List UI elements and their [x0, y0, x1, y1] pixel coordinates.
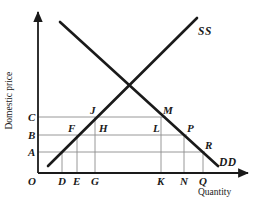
point-label-M: M — [163, 105, 173, 116]
point-label-J: J — [90, 105, 96, 116]
quantity-axis-label-G: G — [91, 176, 99, 187]
y-axis-title: Domestic price — [5, 72, 15, 130]
supply-demand-figure: Domestic price Quantity SSDDCBADEGKNQJMF… — [0, 0, 259, 219]
point-label-L: L — [153, 123, 160, 134]
quantity-gridlines — [62, 117, 203, 173]
curve-label-demand: DD — [219, 157, 237, 169]
curve-supply — [48, 18, 197, 166]
price-axis-label-A: A — [28, 147, 35, 158]
point-label-H: H — [99, 123, 108, 134]
price-axis-label-C: C — [28, 112, 35, 123]
price-gridlines — [38, 117, 205, 152]
axes — [38, 12, 248, 173]
origin-label: O — [28, 176, 36, 187]
point-label-F: F — [68, 123, 75, 134]
x-axis-title: Quantity — [198, 188, 231, 198]
curves — [48, 18, 218, 166]
quantity-axis-label-D: D — [58, 176, 66, 187]
quantity-axis-label-Q: Q — [199, 176, 207, 187]
curve-demand — [60, 22, 218, 166]
quantity-axis-label-N: N — [180, 176, 188, 187]
point-label-P: P — [187, 123, 194, 134]
price-axis-label-B: B — [28, 130, 35, 141]
quantity-axis-label-E: E — [73, 176, 80, 187]
point-label-R: R — [205, 140, 212, 151]
curve-label-supply: SS — [198, 26, 212, 38]
quantity-axis-label-K: K — [157, 176, 164, 187]
